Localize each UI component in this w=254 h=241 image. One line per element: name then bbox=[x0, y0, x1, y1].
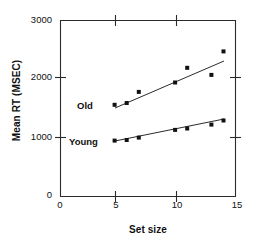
old-series-markers bbox=[113, 49, 226, 106]
data-point bbox=[209, 123, 213, 127]
y-tick-label-2000: 2000 bbox=[18, 71, 52, 82]
young-fit-line bbox=[115, 119, 224, 141]
x-tick-label-0: 0 bbox=[48, 199, 72, 210]
chart-figure: 3000 2000 1000 0 0 5 10 15 Mean RT (MSEC… bbox=[0, 0, 254, 241]
x-axis-title: Set size bbox=[60, 224, 236, 235]
data-point bbox=[125, 138, 129, 142]
data-point bbox=[113, 139, 117, 143]
y-tick-label-3000: 3000 bbox=[18, 14, 52, 25]
x-tick-marks bbox=[116, 15, 177, 202]
x-tick-label-10: 10 bbox=[165, 199, 189, 210]
y-tick-label-1000: 1000 bbox=[18, 131, 52, 142]
data-point bbox=[209, 73, 213, 77]
x-tick-label-5: 5 bbox=[104, 199, 128, 210]
y-axis-title: Mean RT (MSEC) bbox=[11, 46, 22, 156]
regression-lines bbox=[115, 61, 224, 141]
data-point bbox=[222, 49, 226, 53]
old-fit-line bbox=[115, 61, 224, 108]
data-point bbox=[125, 101, 129, 105]
data-point bbox=[222, 119, 226, 123]
data-point bbox=[137, 90, 141, 94]
data-point bbox=[173, 128, 177, 132]
series-label-old: Old bbox=[77, 100, 93, 111]
data-point bbox=[185, 66, 189, 70]
data-point bbox=[173, 81, 177, 85]
x-tick-label-15: 15 bbox=[225, 199, 249, 210]
data-point bbox=[185, 127, 189, 131]
series-label-young: Young bbox=[69, 136, 98, 147]
data-point bbox=[137, 136, 141, 140]
data-point bbox=[113, 103, 117, 107]
y-tick-label-0: 0 bbox=[18, 189, 52, 200]
